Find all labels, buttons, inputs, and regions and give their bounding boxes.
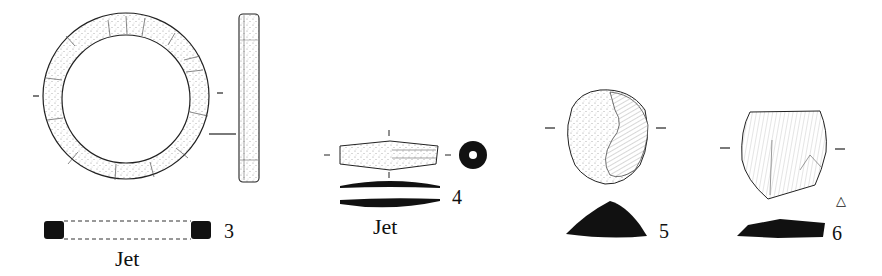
bead-sections xyxy=(340,181,440,207)
ring-plan-view xyxy=(43,13,209,180)
ring-side-profile xyxy=(239,14,259,182)
flake-dorsal-view xyxy=(742,111,827,199)
item-number-5: 5 xyxy=(659,221,669,241)
scraper-dorsal-view xyxy=(568,90,648,184)
item-number-3: 3 xyxy=(224,221,234,241)
flake-section xyxy=(737,219,825,238)
item-number-6: 6 xyxy=(832,223,842,243)
artifact-illustration-plate xyxy=(0,0,882,276)
item-number-4: 4 xyxy=(452,187,462,207)
scraper-section xyxy=(566,201,647,238)
bead-end-view xyxy=(459,141,487,169)
triangle-symbol: △ xyxy=(836,194,846,207)
bead-side-view xyxy=(340,141,438,170)
ring-section xyxy=(44,221,211,239)
material-label-3: Jet xyxy=(115,248,139,270)
material-label-4: Jet xyxy=(373,216,397,238)
